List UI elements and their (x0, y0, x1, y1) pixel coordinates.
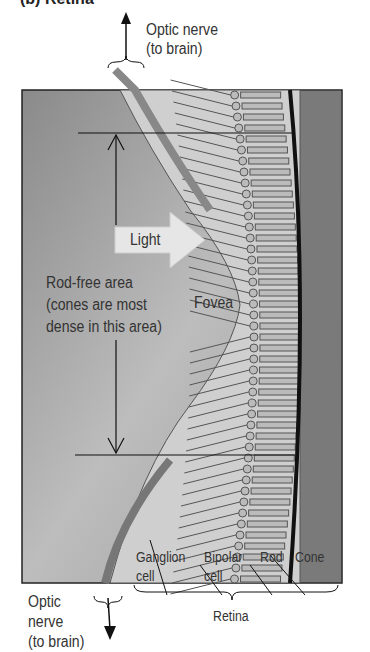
optic-nerve-bottom-label: Opticnerve(to brain) (28, 592, 84, 652)
ganglion-cell-label: Ganglioncell (136, 548, 185, 586)
rod-free-label: Rod-free area(cones are mostdense in thi… (46, 272, 162, 338)
optic-nerve-top-label: Optic nerve(to brain) (146, 20, 218, 58)
cone-label: Cone (295, 548, 324, 567)
bipolar-cell-label: Bipolarcell (204, 548, 242, 586)
light-label: Light (130, 230, 161, 249)
rod-label: Rod (260, 548, 283, 567)
fovea-label: Fovea (194, 293, 233, 312)
retina-label: Retina (213, 607, 249, 626)
